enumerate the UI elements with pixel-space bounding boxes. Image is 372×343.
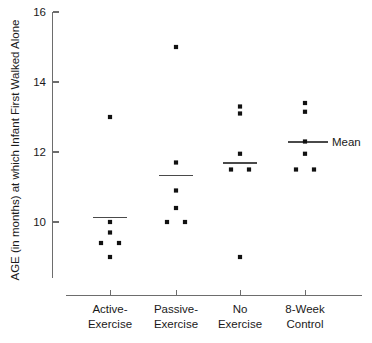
y-axis-ticks	[53, 12, 59, 222]
data-points-layer	[93, 45, 322, 259]
data-point	[238, 111, 242, 115]
data-point	[294, 167, 298, 171]
category-label-0-line2: Exercise	[88, 318, 132, 330]
data-point	[183, 220, 187, 224]
category-label-2-line2: Exercise	[218, 318, 262, 330]
data-point	[238, 152, 242, 156]
category-label-3-line1: 8-Week	[285, 303, 325, 315]
scatter-plot-figure: 16 14 12 10 AGE (in months) at which Inf…	[0, 0, 372, 343]
y-tick-label-16: 16	[33, 6, 46, 18]
category-label-2-line1: No	[233, 303, 248, 315]
data-point	[303, 101, 307, 105]
data-point	[174, 206, 178, 210]
data-point	[303, 152, 307, 156]
data-group	[93, 115, 127, 259]
data-point	[247, 167, 251, 171]
y-tick-label-10: 10	[33, 216, 46, 228]
chart-canvas: 16 14 12 10 AGE (in months) at which Inf…	[0, 0, 372, 343]
category-label-1-line1: Passive-	[154, 303, 198, 315]
data-point	[174, 160, 178, 164]
data-point	[108, 220, 112, 224]
y-axis-title: AGE (in months) at which Infant First Wa…	[9, 20, 21, 281]
data-point	[99, 241, 103, 245]
data-point	[303, 139, 307, 143]
data-point	[108, 115, 112, 119]
category-label-1-line2: Exercise	[154, 318, 198, 330]
data-point	[108, 255, 112, 259]
data-point	[117, 241, 121, 245]
category-label-0-line1: Active-	[92, 303, 127, 315]
y-tick-label-12: 12	[33, 146, 46, 158]
data-point	[303, 110, 307, 114]
data-point	[174, 45, 178, 49]
data-point	[238, 104, 242, 108]
data-point	[229, 167, 233, 171]
data-point	[174, 188, 178, 192]
mean-annotation-label: Mean	[332, 136, 361, 148]
data-point	[238, 255, 242, 259]
data-group	[159, 45, 193, 224]
data-point	[312, 167, 316, 171]
category-label-3-line2: Control	[286, 318, 323, 330]
x-axis-category-labels: Active- Exercise Passive- Exercise No Ex…	[88, 303, 325, 330]
y-tick-label-14: 14	[33, 76, 46, 88]
data-group	[288, 101, 322, 172]
data-group	[223, 104, 257, 259]
data-point	[108, 230, 112, 234]
mean-annotation: Mean	[307, 136, 361, 148]
data-point	[165, 220, 169, 224]
x-axis-ticks	[111, 290, 306, 296]
